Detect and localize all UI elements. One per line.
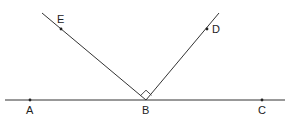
point-c [261, 99, 264, 102]
label-a: A [26, 104, 34, 116]
geometry-diagram: A B C D E [0, 0, 288, 125]
ray-bd [146, 13, 219, 100]
point-d [206, 28, 209, 31]
point-a [29, 99, 32, 102]
label-c: C [258, 104, 266, 116]
ray-be [42, 13, 146, 100]
label-b: B [142, 104, 149, 116]
label-d: D [212, 23, 220, 35]
label-e: E [57, 13, 64, 25]
point-e [60, 28, 63, 31]
